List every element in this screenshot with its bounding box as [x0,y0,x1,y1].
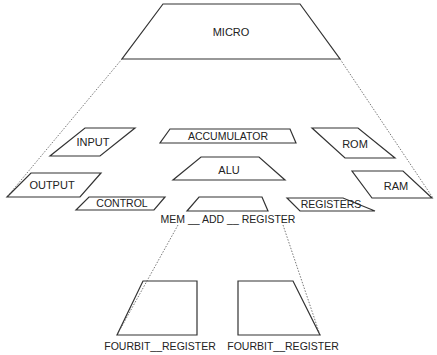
node-mem-add-register: MEM __ ADD __ REGISTER [161,197,296,225]
node-rom: ROM [312,128,395,158]
node-registers: REGISTERS [287,198,375,211]
node-label: ROM [342,138,368,150]
node-alu: ALU [173,157,285,180]
node-label: ALU [218,164,239,176]
diagram-canvas: MICROINPUTACCUMULATORROMALUOUTPUTRAMCONT… [0,0,437,355]
node-label: FOURBIT__REGISTER [227,340,339,352]
trapezoid-shape [187,197,268,211]
node-label: CONTROL [96,197,147,209]
node-micro: MICRO [122,4,340,59]
node-label: MEM __ ADD __ REGISTER [161,213,296,225]
node-accumulator: ACCUMULATOR [160,129,296,143]
node-label: INPUT [77,136,110,148]
micro-architecture-diagram: MICROINPUTACCUMULATORROMALUOUTPUTRAMCONT… [0,0,437,355]
trapezoid-shape [117,281,197,335]
node-label: OUTPUT [29,179,75,191]
node-output: OUTPUT [7,173,101,197]
trapezoid-shape [238,281,320,335]
node-label: MICRO [213,26,250,38]
node-label: FOURBIT__REGISTER [104,340,216,352]
node-label: REGISTERS [301,198,362,210]
node-fourbit-register-2: FOURBIT__REGISTER [227,281,339,352]
node-fourbit-register-1: FOURBIT__REGISTER [104,281,216,352]
node-label: RAM [384,180,408,192]
node-ram: RAM [352,171,432,198]
node-input: INPUT [50,128,135,156]
node-control: CONTROL [76,197,165,210]
nodes-layer: MICROINPUTACCUMULATORROMALUOUTPUTRAMCONT… [7,4,432,352]
node-label: ACCUMULATOR [188,130,269,142]
